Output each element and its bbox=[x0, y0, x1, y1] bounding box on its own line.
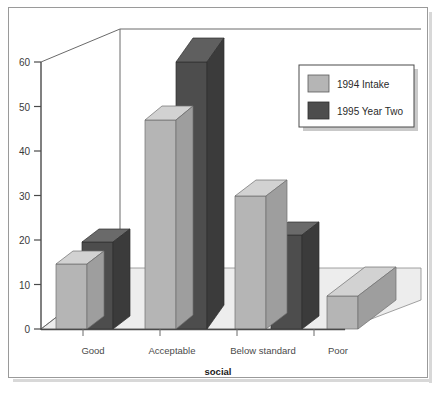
legend-label-1994: 1994 Intake bbox=[337, 79, 390, 90]
legend-label-1995: 1995 Year Two bbox=[337, 106, 403, 117]
bar-good-1994-front bbox=[56, 264, 87, 329]
legend-swatch-1994 bbox=[308, 75, 329, 92]
x-axis-title: social bbox=[205, 366, 232, 377]
bar-belowstandard-1994-front bbox=[235, 196, 266, 329]
bar-belowstandard-1995-side bbox=[302, 222, 319, 329]
x-tick-label-good: Good bbox=[81, 345, 104, 356]
chart-legend: 1994 Intake 1995 Year Two bbox=[299, 65, 418, 131]
bar-acceptable-1995-side bbox=[207, 38, 224, 329]
legend-swatch-1995 bbox=[308, 102, 329, 119]
bar-poor-1994-front bbox=[327, 296, 358, 329]
y-axis: 60 50 40 30 20 10 0 bbox=[19, 57, 41, 335]
chart-canvas: 60 50 40 30 20 10 0 bbox=[0, 0, 444, 395]
y-tick-label-50: 50 bbox=[19, 102, 31, 113]
y-tick-label-10: 10 bbox=[19, 280, 31, 291]
y-tick-label-20: 20 bbox=[19, 235, 31, 246]
bar-good-1995-side bbox=[113, 229, 130, 329]
chart-figure: 60 50 40 30 20 10 0 bbox=[0, 0, 444, 395]
x-tick-label-acceptable: Acceptable bbox=[148, 345, 195, 356]
x-tick-label-below-standard: Below standard bbox=[230, 345, 295, 356]
y-tick-label-60: 60 bbox=[19, 57, 31, 68]
bar-good-1994-side bbox=[87, 251, 104, 329]
bar-belowstandard-1994 bbox=[235, 180, 287, 329]
back-wall-top-edge bbox=[41, 29, 421, 62]
x-axis: Good Acceptable Below standard Poor soci… bbox=[41, 329, 348, 377]
x-tick-label-poor: Poor bbox=[328, 345, 348, 356]
bar-acceptable-1994-side bbox=[176, 106, 193, 329]
bar-belowstandard-1994-side bbox=[266, 180, 287, 329]
bar-acceptable-1994-front bbox=[145, 120, 176, 329]
y-tick-label-0: 0 bbox=[24, 324, 30, 335]
bar-acceptable-1994 bbox=[145, 106, 193, 329]
y-tick-label-30: 30 bbox=[19, 191, 31, 202]
y-tick-label-40: 40 bbox=[19, 146, 31, 157]
bar-good-1994 bbox=[56, 251, 104, 329]
